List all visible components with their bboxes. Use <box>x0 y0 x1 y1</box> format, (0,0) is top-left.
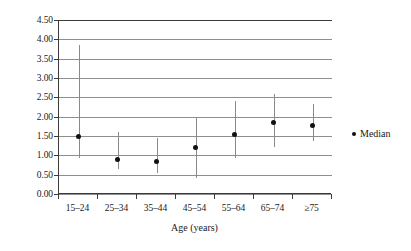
chart-figure: 0.000.501.001.502.002.503.003.504.004.50… <box>0 0 411 251</box>
x-axis-tick-mark <box>58 194 59 199</box>
x-axis-tick-mark <box>253 194 254 199</box>
median-data-point <box>76 134 81 139</box>
error-bar-whisker <box>79 45 80 158</box>
x-axis-tick-mark <box>331 194 332 199</box>
gridline <box>59 59 332 60</box>
x-axis-tick-mark <box>175 194 176 199</box>
y-axis-tick-label: 3.00 <box>13 73 53 83</box>
y-axis-tick-label: 2.00 <box>13 112 53 122</box>
x-axis-tick-mark <box>97 194 98 199</box>
x-axis-tick-label: ≥75 <box>282 203 342 214</box>
gridline <box>59 20 332 21</box>
gridline <box>59 39 332 40</box>
y-axis-tick-label: 4.00 <box>13 34 53 44</box>
median-data-point <box>232 132 237 137</box>
error-bar-whisker <box>235 101 236 158</box>
median-data-point <box>310 123 315 128</box>
y-axis-tick-label: 0.50 <box>13 170 53 180</box>
y-axis-tick-label: 4.50 <box>13 15 53 25</box>
x-axis-title: Age (years) <box>58 222 331 234</box>
legend-median-dot-icon <box>352 132 356 136</box>
error-bar-whisker <box>157 138 158 173</box>
plot-area <box>58 20 331 194</box>
y-axis-tick-label: 1.50 <box>13 131 53 141</box>
median-data-point <box>115 157 120 162</box>
median-data-point <box>154 159 159 164</box>
y-axis-tick-label: 2.50 <box>13 92 53 102</box>
y-axis-tick-label: 1.00 <box>13 150 53 160</box>
median-data-point <box>193 145 198 150</box>
x-axis-tick-mark <box>214 194 215 199</box>
median-data-point <box>271 120 276 125</box>
legend-label-median: Median <box>360 128 391 139</box>
gridline <box>59 78 332 79</box>
x-axis-tick-mark <box>292 194 293 199</box>
error-bar-whisker <box>118 132 119 169</box>
x-axis-tick-mark <box>136 194 137 199</box>
y-axis-tick-label: 3.50 <box>13 54 53 64</box>
chart-legend: Median <box>352 128 391 139</box>
gridline <box>59 97 332 98</box>
y-axis-tick-label: 0.00 <box>13 189 53 199</box>
